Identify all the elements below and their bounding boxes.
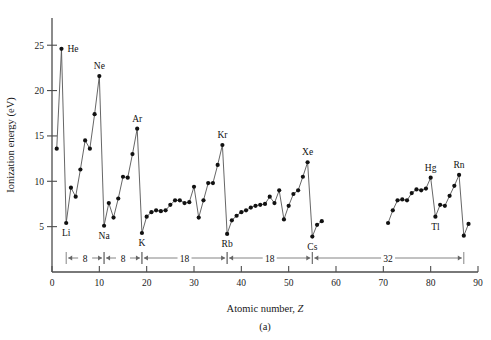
data-point (74, 195, 78, 199)
data-point (135, 127, 139, 131)
bracket-arrow-left (314, 256, 318, 261)
element-label-ne: Ne (94, 61, 105, 71)
data-point (438, 203, 442, 207)
data-point (88, 147, 92, 151)
data-point (466, 222, 470, 226)
data-point (410, 191, 414, 195)
period-bracket-label: 32 (383, 254, 393, 264)
data-point (414, 187, 418, 191)
data-point (452, 184, 456, 188)
bracket-arrow-left (229, 256, 233, 261)
ionization-energy-figure: 5101520250102030405060708090HeNeArKrXeRn… (0, 0, 491, 340)
bracket-arrow-right (458, 256, 462, 261)
data-point (268, 195, 272, 199)
period-bracket-label: 8 (83, 254, 88, 264)
data-point (310, 235, 314, 239)
x-tick-label: 60 (331, 278, 341, 288)
data-point (405, 198, 409, 202)
element-label-rb: Rb (222, 239, 233, 249)
bracket-arrow-left (106, 256, 110, 261)
data-point (287, 204, 291, 208)
bracket-arrow-right (136, 256, 140, 261)
data-point (140, 231, 144, 235)
x-tick-label: 30 (189, 278, 199, 288)
data-point (272, 201, 276, 205)
data-point (462, 234, 466, 238)
element-label-hg: Hg (425, 163, 437, 173)
data-point (159, 209, 163, 213)
data-point (116, 196, 120, 200)
figure-label: (a) (259, 321, 271, 333)
data-point (164, 208, 168, 212)
x-axis-label: Atomic number, Z (227, 303, 304, 314)
data-point (239, 210, 243, 214)
data-point (168, 203, 172, 207)
data-point (126, 176, 130, 180)
x-tick-label: 90 (473, 278, 483, 288)
data-point (235, 214, 239, 218)
data-point (457, 173, 461, 177)
data-point (154, 208, 158, 212)
data-point (107, 201, 111, 205)
element-label-rn: Rn (454, 160, 465, 170)
data-point (282, 217, 286, 221)
period-bracket-label: 18 (180, 254, 190, 264)
chart-canvas: 5101520250102030405060708090HeNeArKrXeRn… (0, 0, 491, 340)
data-point (182, 201, 186, 205)
data-point (306, 160, 310, 164)
y-tick-label: 15 (35, 131, 45, 141)
bracket-arrow-right (221, 256, 225, 261)
element-label-ar: Ar (132, 114, 143, 124)
element-label-na: Na (99, 231, 111, 241)
data-point (206, 181, 210, 185)
data-point (258, 203, 262, 207)
data-point (419, 188, 423, 192)
y-axis-label: Ionization energy (eV) (5, 97, 17, 193)
data-point (443, 204, 447, 208)
bracket-arrow-right (98, 256, 102, 261)
data-line (57, 49, 322, 237)
x-tick-label: 0 (50, 278, 55, 288)
data-point (386, 221, 390, 225)
data-point (121, 175, 125, 179)
x-tick-label: 10 (95, 278, 105, 288)
data-point (277, 188, 281, 192)
data-point (97, 74, 101, 78)
data-point (64, 221, 68, 225)
period-bracket-label: 18 (265, 254, 275, 264)
x-tick-label: 20 (142, 278, 152, 288)
data-line (388, 175, 468, 236)
data-point (192, 185, 196, 189)
element-label-kr: Kr (217, 130, 228, 140)
data-point (55, 147, 59, 151)
bracket-arrow-right (306, 256, 310, 261)
element-label-k: K (138, 238, 145, 248)
bracket-arrow-left (144, 256, 148, 261)
data-point (59, 47, 63, 51)
data-point (244, 208, 248, 212)
data-point (424, 186, 428, 190)
data-point (83, 138, 87, 142)
data-point (391, 208, 395, 212)
element-label-li: Li (62, 228, 71, 238)
data-point (249, 205, 253, 209)
data-point (178, 198, 182, 202)
data-point (93, 112, 97, 116)
data-point (315, 223, 319, 227)
x-tick-label: 40 (237, 278, 247, 288)
data-point (429, 176, 433, 180)
data-point (173, 198, 177, 202)
element-label-cs: Cs (307, 242, 317, 252)
data-point (301, 175, 305, 179)
data-point (145, 215, 149, 219)
data-point (211, 181, 215, 185)
data-point (225, 232, 229, 236)
period-bracket-label: 8 (121, 254, 126, 264)
data-point (220, 143, 224, 147)
data-point (448, 194, 452, 198)
data-point (263, 202, 267, 206)
data-point (216, 163, 220, 167)
y-tick-label: 20 (35, 86, 45, 96)
x-tick-label: 80 (426, 278, 436, 288)
data-point (201, 198, 205, 202)
